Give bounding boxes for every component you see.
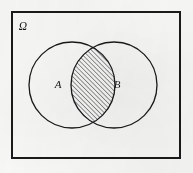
universe-label-omega: Ω — [19, 20, 27, 32]
set-b-label: B — [114, 78, 121, 90]
venn-diagram-canvas: Ω A B — [0, 0, 193, 173]
venn-diagram-figure: Ω A B — [0, 0, 193, 173]
set-a-label: A — [54, 78, 62, 90]
